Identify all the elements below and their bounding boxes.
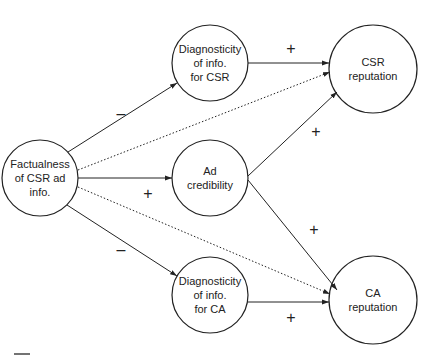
label-factualness: Factualness of CSR ad info. [10,157,69,199]
sign-diag-csr-csr-rep: + [286,41,295,57]
edge-ad-cred-to-csr-rep [248,92,337,176]
sign-diag-ca-ca-rep: + [286,310,295,326]
edge-ad-cred-to-ca-rep [248,180,337,290]
sign-factualness-ad-cred: + [143,186,152,202]
label-diagnosticity-csr: Diagnosticity of info. for CSR [179,42,241,84]
label-ad-credibility: Ad credibility [187,164,233,192]
label-ca-reputation: CA reputation [349,286,398,314]
label-diagnosticity-ca: Diagnosticity of info. for CA [179,274,241,316]
sign-ad-cred-csr-rep: + [311,124,320,140]
sign-ad-cred-ca-rep: + [309,222,318,238]
sign-factualness-diag-csr: – [117,106,126,122]
sign-factualness-diag-ca: – [117,242,126,258]
label-csr-reputation: CSR reputation [349,55,398,83]
